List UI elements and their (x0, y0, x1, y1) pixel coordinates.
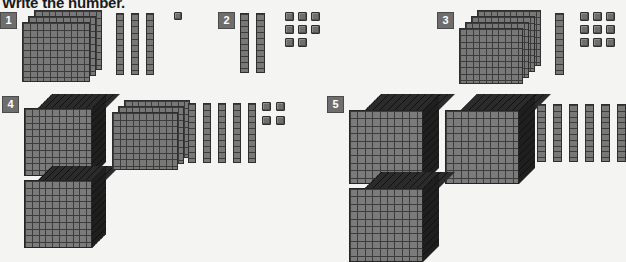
flat-group (22, 10, 102, 82)
cube-front-face (445, 110, 519, 184)
unit-one (285, 12, 294, 21)
unit-one (298, 25, 307, 34)
rod-ten (585, 104, 594, 162)
rod-ten (256, 13, 265, 73)
cube-right-face (92, 94, 106, 176)
rod-ten (116, 13, 124, 75)
unit-one (285, 25, 294, 34)
flat-hundred (22, 22, 90, 82)
unit-one (298, 38, 307, 47)
unit-one (262, 116, 271, 125)
rod-ten (248, 103, 256, 163)
rod-ten (240, 13, 249, 73)
flat-group (112, 100, 190, 170)
unit-one (262, 102, 271, 111)
rod-ten (617, 104, 626, 162)
cube-top-face (38, 94, 120, 108)
rod-ten (555, 13, 564, 75)
unit-one (593, 38, 602, 47)
cube-thousand (24, 94, 106, 176)
problem-number-badge: 1 (0, 12, 17, 29)
rod-ten (146, 13, 154, 75)
unit-one (606, 12, 615, 21)
unit-group (285, 12, 320, 47)
problem-number-badge: 3 (437, 12, 454, 29)
unit-one (580, 25, 589, 34)
unit-one (298, 12, 307, 21)
unit-group (174, 12, 204, 20)
problem-number-badge: 2 (218, 12, 235, 29)
cube-right-face (92, 166, 106, 248)
rod-ten (553, 104, 562, 162)
rod-ten (218, 103, 226, 163)
unit-group (580, 12, 615, 47)
unit-one (606, 25, 615, 34)
flat-group (459, 10, 541, 84)
cube-thousand (349, 172, 439, 262)
cube-right-face (423, 94, 439, 184)
unit-one (311, 25, 320, 34)
problem-3-blocks (459, 10, 615, 84)
rod-ten (188, 103, 196, 163)
unit-one (276, 116, 285, 125)
unit-one (580, 38, 589, 47)
rod-ten (537, 104, 546, 162)
problem-1-blocks (22, 10, 204, 82)
flat-hundred (112, 112, 178, 170)
unit-one (593, 25, 602, 34)
unit-one (311, 12, 320, 21)
cube-top-face (38, 166, 120, 180)
rod-ten (601, 104, 610, 162)
unit-one (276, 102, 285, 111)
rod-ten (131, 13, 139, 75)
unit-group (262, 102, 285, 125)
rod-ten (233, 103, 241, 163)
unit-one (593, 12, 602, 21)
cube-thousand (349, 94, 439, 184)
problem-number-badge: 5 (327, 96, 344, 113)
rod-group (555, 13, 564, 75)
cube-top-face (365, 94, 455, 110)
cube-front-face (349, 188, 423, 262)
cube-front-face (24, 180, 92, 248)
problem-2-blocks (240, 10, 320, 73)
unit-one (580, 12, 589, 21)
rod-group (188, 103, 256, 163)
rod-group (116, 13, 154, 75)
problem-number-badge: 4 (2, 96, 19, 113)
rod-group (240, 13, 265, 73)
rod-ten (203, 103, 211, 163)
cube-thousand (24, 166, 106, 248)
unit-one (285, 38, 294, 47)
unit-one (606, 38, 615, 47)
cube-thousand (445, 94, 535, 184)
cube-top-face (365, 172, 455, 188)
rod-ten (569, 104, 578, 162)
rod-group (537, 104, 626, 162)
cube-right-face (423, 172, 439, 262)
flat-hundred (459, 28, 523, 84)
unit-one (174, 12, 182, 20)
cube-right-face (519, 94, 535, 184)
